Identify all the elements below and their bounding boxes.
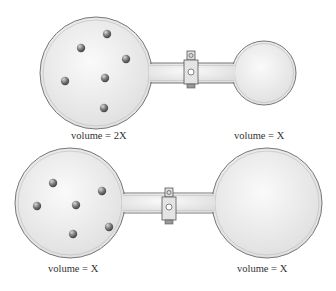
stopcock-valve [184,51,198,88]
top-left-volume-label: volume = 2X [71,130,127,141]
bottom-left-volume-label: volume = X [48,263,98,274]
top-flask-body [40,17,296,129]
top-apparatus [40,17,296,129]
flask-diagrams [0,0,336,291]
bottom-apparatus [15,148,322,258]
bottom-right-volume-label: volume = X [237,263,287,274]
top-right-volume-label: volume = X [234,130,284,141]
